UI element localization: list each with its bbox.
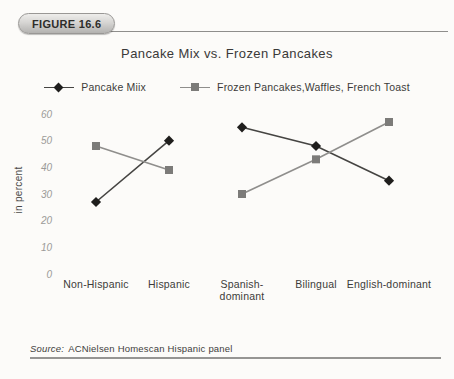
x-category-label: Spanish-dominant (220, 278, 265, 302)
data-point-square (385, 118, 393, 126)
source-note: Source:ACNielsen Homescan Hispanic panel (30, 343, 233, 354)
data-point-diamond (237, 122, 247, 132)
y-tick-label: 30 (41, 189, 53, 200)
chart-title: Pancake Mix vs. Frozen Pancakes (0, 46, 454, 61)
source-prefix: Source: (30, 343, 64, 354)
y-tick-label: 10 (41, 242, 53, 253)
bottom-rule (30, 357, 441, 359)
y-tick-label: 20 (40, 215, 53, 226)
y-tick-label: 60 (41, 109, 53, 120)
legend-item-frozen-pancakes: Frozen Pancakes,Waffles, French Toast (180, 81, 410, 93)
data-point-diamond (384, 176, 394, 186)
legend-label: Pancake Miix (81, 81, 146, 93)
data-point-square (238, 190, 246, 198)
legend-label: Frozen Pancakes,Waffles, French Toast (217, 81, 410, 93)
figure-badge: FIGURE 16.6 (18, 13, 115, 34)
square-marker-icon (180, 82, 210, 93)
x-category-label: Bilingual (295, 278, 337, 290)
figure-label: FIGURE 16.6 (32, 18, 101, 30)
data-point-diamond (311, 141, 321, 151)
y-tick-label: 0 (46, 269, 52, 280)
y-axis-title: in percent (13, 167, 24, 214)
square-marker (191, 83, 199, 91)
chart-legend: Pancake Miix Frozen Pancakes,Waffles, Fr… (0, 81, 454, 93)
legend-item-pancake-mix: Pancake Miix (44, 81, 146, 93)
data-point-square (312, 155, 320, 163)
data-point-square (165, 166, 173, 174)
line-chart: 6050403020100in percentNon-HispanicHispa… (0, 100, 454, 330)
x-category-label: Non-Hispanic (63, 278, 128, 290)
x-category-label: English-dominant (347, 278, 431, 290)
figure-panel: FIGURE 16.6 Pancake Mix vs. Frozen Panca… (0, 0, 454, 379)
y-tick-label: 50 (41, 135, 53, 146)
diamond-marker-icon (44, 82, 74, 93)
y-tick-label: 40 (41, 162, 53, 173)
x-category-label: Hispanic (148, 278, 190, 290)
header-rule (84, 31, 448, 32)
series-line-0 (242, 127, 389, 180)
diamond-marker (54, 82, 64, 92)
source-text: ACNielsen Homescan Hispanic panel (68, 343, 232, 354)
data-point-square (92, 142, 100, 150)
